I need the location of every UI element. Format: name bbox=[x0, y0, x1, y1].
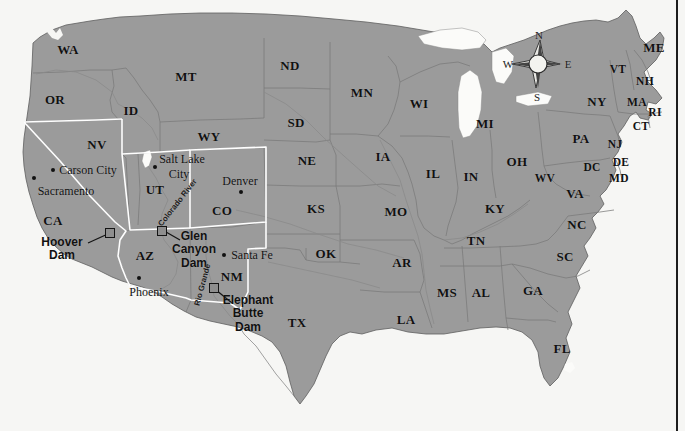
state-label-ga: GA bbox=[523, 284, 543, 297]
right-edge-rule bbox=[676, 0, 678, 431]
city-label-sacramento: Sacramento bbox=[38, 185, 95, 197]
state-label-tn: TN bbox=[467, 234, 486, 247]
state-label-va: VA bbox=[566, 187, 584, 200]
dam-marker-hoover-dam bbox=[105, 228, 115, 238]
state-label-in: IN bbox=[463, 170, 478, 183]
dam-label-line: Dam bbox=[41, 249, 82, 262]
city-dot-sacramento bbox=[32, 176, 36, 180]
state-label-or: OR bbox=[45, 93, 65, 106]
compass-circle bbox=[529, 55, 547, 73]
state-label-ma: MA bbox=[627, 97, 647, 109]
state-label-mt: MT bbox=[175, 70, 197, 83]
state-label-ct: CT bbox=[633, 121, 650, 133]
dam-label-line: Hoover bbox=[41, 236, 82, 249]
state-label-id: ID bbox=[123, 104, 138, 117]
state-label-sd: SD bbox=[287, 116, 304, 129]
state-label-ne: NE bbox=[298, 154, 317, 167]
state-label-ri: RI bbox=[648, 107, 661, 119]
state-label-ms: MS bbox=[437, 286, 457, 299]
state-label-nm: NM bbox=[221, 270, 243, 283]
dam-label-line: Elephant bbox=[223, 294, 274, 307]
state-label-mi: MI bbox=[476, 117, 494, 130]
state-label-sc: SC bbox=[556, 250, 573, 263]
state-label-az: AZ bbox=[136, 249, 155, 262]
state-label-mo: MO bbox=[385, 205, 408, 218]
state-label-tx: TX bbox=[288, 316, 307, 329]
us-map-figure: WAORIDMTWYNVUTCAAZNMCONDSDNEKSOKTXMNIAMO… bbox=[0, 0, 685, 431]
dam-label-line: Butte bbox=[223, 307, 274, 320]
dam-label-line: Dam bbox=[223, 321, 274, 334]
state-label-dc: DC bbox=[583, 162, 600, 174]
map-geometry bbox=[0, 0, 685, 431]
city-label-city: City bbox=[169, 168, 190, 180]
dam-marker-elephant-butte-dam bbox=[209, 283, 219, 293]
state-label-md: MD bbox=[609, 173, 629, 185]
state-label-co: CO bbox=[212, 204, 232, 217]
state-label-wy: WY bbox=[198, 130, 221, 143]
state-label-ks: KS bbox=[307, 202, 325, 215]
city-label-carson-city: Carson City bbox=[59, 164, 117, 176]
state-label-ar: AR bbox=[392, 256, 411, 269]
state-label-de: DE bbox=[613, 157, 630, 169]
state-label-vt: VT bbox=[610, 64, 627, 76]
compass-west-label: W bbox=[503, 59, 513, 70]
state-label-ny: NY bbox=[587, 95, 606, 108]
state-label-la: LA bbox=[397, 313, 416, 326]
compass-east-label: E bbox=[565, 59, 572, 70]
state-label-wa: WA bbox=[57, 43, 79, 56]
state-label-nd: ND bbox=[280, 59, 299, 72]
city-dot-denver bbox=[239, 190, 243, 194]
state-label-nc: NC bbox=[567, 218, 586, 231]
dam-label-hoover-dam: HooverDam bbox=[41, 236, 82, 263]
state-label-fl: FL bbox=[553, 342, 570, 355]
state-label-wv: WV bbox=[535, 173, 555, 185]
state-label-ok: OK bbox=[316, 247, 337, 260]
city-dot-carson-city bbox=[51, 168, 55, 172]
dam-label-elephant-butte-dam: ElephantButteDam bbox=[223, 294, 274, 334]
dam-label-line: Glen bbox=[172, 230, 216, 243]
state-label-ia: IA bbox=[375, 150, 390, 163]
state-label-mn: MN bbox=[351, 86, 373, 99]
city-dot-salt-lake bbox=[153, 165, 157, 169]
city-dot-santa-fe bbox=[222, 253, 226, 257]
city-label-denver: Denver bbox=[222, 175, 257, 187]
state-label-oh: OH bbox=[507, 155, 528, 168]
state-label-ky: KY bbox=[485, 202, 505, 215]
state-label-nv: NV bbox=[87, 138, 106, 151]
city-dot-phoenix bbox=[137, 276, 141, 280]
lake-okeechobee bbox=[564, 362, 575, 373]
state-label-wi: WI bbox=[410, 97, 429, 110]
state-label-ut: UT bbox=[146, 183, 165, 196]
state-label-ca: CA bbox=[43, 214, 62, 227]
city-label-santa-fe: Santa Fe bbox=[231, 249, 273, 261]
state-label-il: IL bbox=[426, 167, 440, 180]
state-label-nh: NH bbox=[636, 76, 654, 88]
state-label-pa: PA bbox=[573, 132, 590, 145]
city-label-phoenix: Phoenix bbox=[129, 286, 168, 298]
city-label-salt-lake: Salt Lake bbox=[159, 153, 205, 165]
state-label-nj: NJ bbox=[608, 139, 623, 151]
dam-label-line: Canyon bbox=[172, 243, 216, 256]
compass-south-label: S bbox=[534, 92, 540, 103]
compass-north-label: N bbox=[535, 30, 543, 41]
state-label-me: ME bbox=[643, 41, 665, 54]
state-label-al: AL bbox=[472, 286, 491, 299]
